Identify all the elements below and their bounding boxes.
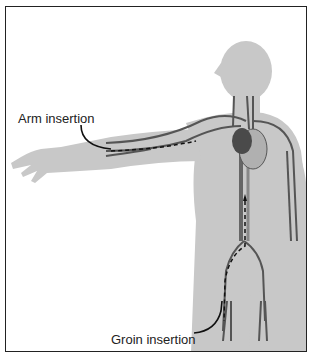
body-silhouette <box>11 41 307 352</box>
groin-insertion-label: Groin insertion <box>111 332 196 347</box>
diagram-root: Arm insertion Groin insertion <box>0 0 313 357</box>
arm-insertion-label: Arm insertion <box>18 111 95 126</box>
body-illustration <box>6 7 307 352</box>
diagram-frame: Arm insertion Groin insertion <box>5 6 307 352</box>
